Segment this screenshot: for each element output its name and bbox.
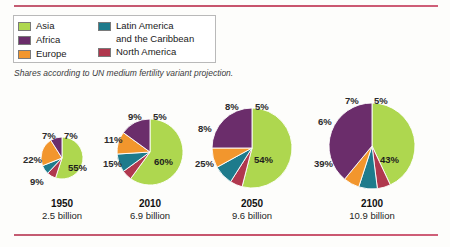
pie-label-2010-europe: 11% xyxy=(104,134,123,145)
legend-label-latin-america: Latin America and the Caribbean xyxy=(116,19,194,45)
pie-label-1950-latin-america-and-the-caribbean: 7% xyxy=(42,130,56,141)
legend-label-africa: Africa xyxy=(36,33,60,46)
pie-caption-2010: 20106.9 billion xyxy=(95,198,205,222)
pie-caption-2100: 210010.9 billion xyxy=(317,198,427,222)
pie-population-label-2100: 10.9 billion xyxy=(317,210,427,222)
pie-label-1950-africa: 9% xyxy=(30,176,44,187)
pie-svg-2050 xyxy=(192,88,312,208)
bottom-divider-rule xyxy=(14,234,438,236)
legend-label-europe: Europe xyxy=(36,47,67,60)
legend-item-europe: Europe xyxy=(18,47,67,61)
pie-label-2100-africa: 39% xyxy=(314,158,333,169)
chart-caption: Shares according to UN medium fertility … xyxy=(14,68,234,79)
population-share-figure: Asia Africa Europe Latin America and the… xyxy=(0,0,450,247)
legend-swatch-africa xyxy=(18,36,31,45)
pie-slice-africa xyxy=(212,108,252,148)
pie-label-2010-north-america: 5% xyxy=(153,111,167,122)
legend-label-north-america: North America xyxy=(116,45,176,58)
pie-svg-2100 xyxy=(312,86,432,206)
legend-label-asia: Asia xyxy=(36,19,54,32)
pie-label-2100-europe: 6% xyxy=(318,116,332,127)
legend-column-left: Asia Africa Europe xyxy=(18,19,67,61)
pie-population-label-2010: 6.9 billion xyxy=(95,210,205,222)
legend-swatch-europe xyxy=(18,50,31,59)
pie-label-2050-north-america: 5% xyxy=(255,101,269,112)
legend-item-africa: Africa xyxy=(18,33,67,47)
pie-chart-2050: 54%25%8%8%5% xyxy=(192,88,312,208)
legend-swatch-latin-america xyxy=(98,22,111,31)
pie-label-2100-asia: 43% xyxy=(380,154,399,165)
legend-swatch-asia xyxy=(18,22,31,31)
legend-column-right: Latin America and the Caribbean North Am… xyxy=(98,19,194,59)
pie-label-2100-latin-america-and-the-caribbean: 7% xyxy=(345,95,359,106)
pie-year-label-2050: 2050 xyxy=(197,198,307,210)
pie-label-2010-latin-america-and-the-caribbean: 9% xyxy=(128,111,142,122)
pie-label-1950-europe: 22% xyxy=(23,154,42,165)
pie-label-1950-asia: 55% xyxy=(68,162,87,173)
legend-item-latin-america: Latin America and the Caribbean xyxy=(98,19,194,45)
pie-caption-2050: 20509.6 billion xyxy=(197,198,307,222)
chart-legend: Asia Africa Europe Latin America and the… xyxy=(13,15,216,63)
pie-population-label-2050: 9.6 billion xyxy=(197,210,307,222)
pie-label-2050-asia: 54% xyxy=(254,154,273,165)
pie-label-2010-africa: 15% xyxy=(103,158,122,169)
pie-label-1950-north-america: 7% xyxy=(64,130,78,141)
pie-year-label-2100: 2100 xyxy=(317,198,427,210)
legend-item-north-america: North America xyxy=(98,45,194,59)
pie-label-2050-africa: 25% xyxy=(195,158,214,169)
legend-swatch-north-america xyxy=(98,48,111,57)
legend-item-asia: Asia xyxy=(18,19,67,33)
pie-label-2050-latin-america-and-the-caribbean: 8% xyxy=(225,101,239,112)
pie-chart-2100: 43%39%6%7%5% xyxy=(312,86,432,206)
pie-label-2100-north-america: 5% xyxy=(374,95,388,106)
pie-label-2010-asia: 60% xyxy=(154,156,173,167)
pie-label-2050-europe: 8% xyxy=(198,123,212,134)
top-divider-rule xyxy=(14,5,438,7)
pie-year-label-2010: 2010 xyxy=(95,198,205,210)
